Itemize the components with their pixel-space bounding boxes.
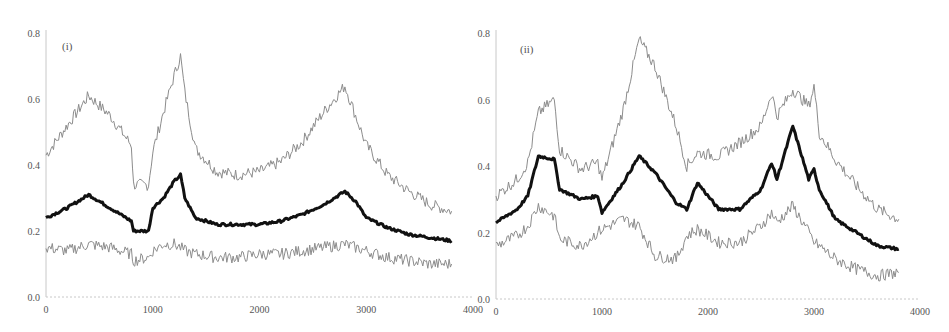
x-tick-labels: 01000200030004000 [44, 304, 484, 315]
y-tick-labels: 0.00.20.40.60.8 [28, 28, 41, 303]
series-upper-line [46, 54, 452, 215]
x-tick-label: 1000 [143, 304, 163, 315]
series-group [496, 37, 899, 281]
x-tick-label: 0 [44, 304, 49, 315]
x-tick-label: 3000 [804, 306, 824, 317]
y-tick-label: 0.8 [28, 28, 41, 39]
x-tick-label: 3000 [356, 304, 376, 315]
x-tick-label: 2000 [698, 306, 718, 317]
y-tick-label: 0.8 [478, 28, 491, 39]
panel-ii: 0.00.20.40.60.8 01000200030004000 (ii) [478, 28, 931, 317]
y-tick-label: 0.0 [28, 292, 41, 303]
y-tick-label: 0.0 [478, 294, 491, 305]
series-mean-line [496, 126, 899, 250]
y-tick-label: 0.6 [28, 94, 41, 105]
series-mean-line [46, 174, 452, 242]
y-tick-labels: 0.00.20.40.60.8 [478, 28, 491, 305]
x-tick-labels: 01000200030004000 [494, 306, 931, 317]
panel-i: 0.00.20.40.60.8 01000200030004000 (i) [28, 28, 484, 315]
x-tick-label: 1000 [592, 306, 612, 317]
series-lower-line [46, 239, 452, 269]
y-tick-label: 0.2 [478, 228, 491, 239]
figure: 0.00.20.40.60.8 01000200030004000 (i) 0.… [0, 0, 949, 332]
x-tick-label: 0 [494, 306, 499, 317]
panel-label: (i) [62, 40, 73, 53]
y-tick-label: 0.4 [28, 160, 41, 171]
panel-label: (ii) [520, 43, 534, 56]
x-tick-label: 4000 [910, 306, 930, 317]
x-tick-label: 2000 [250, 304, 270, 315]
series-lower-line [496, 201, 899, 281]
y-tick-label: 0.4 [478, 161, 491, 172]
y-tick-label: 0.6 [478, 95, 491, 106]
series-group [46, 54, 452, 269]
series-upper-line [496, 37, 899, 222]
x-tick-label: 4000 [463, 304, 483, 315]
y-tick-label: 0.2 [28, 226, 41, 237]
